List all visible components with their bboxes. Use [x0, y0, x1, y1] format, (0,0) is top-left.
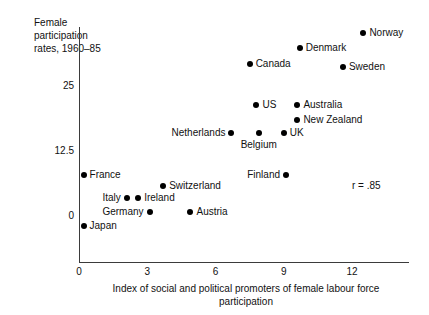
x-tick-label: 12 [337, 266, 367, 277]
data-point-label: Belgium [219, 139, 299, 150]
data-point-label: Norway [369, 27, 403, 38]
y-tick-label: 0 [34, 210, 74, 221]
data-point-label: Germany [102, 206, 143, 217]
data-point [256, 130, 262, 136]
data-point [294, 102, 300, 108]
x-axis-title: Index of social and political promoters … [96, 283, 396, 308]
data-point [135, 195, 141, 201]
y-axis-line [79, 27, 80, 263]
data-point-label: US [262, 99, 276, 110]
data-point [281, 130, 287, 136]
data-point [340, 64, 346, 70]
data-point-label: Canada [256, 58, 291, 69]
data-point-label: New Zealand [303, 114, 362, 125]
data-point-label: Japan [90, 220, 117, 231]
x-tick-label: 6 [201, 266, 231, 277]
data-point [228, 130, 234, 136]
data-point-label: Ireland [144, 192, 175, 203]
data-point [81, 172, 87, 178]
y-tick-label: 12.5 [34, 145, 74, 156]
data-point-label: Finland [247, 169, 280, 180]
correlation-annotation: r = .85 [352, 180, 381, 191]
data-point [187, 209, 193, 215]
x-tick-label: 9 [269, 266, 299, 277]
data-point-label: Switzerland [169, 180, 221, 191]
data-point-label: Australia [303, 99, 342, 110]
data-point [247, 61, 253, 67]
data-point [360, 30, 366, 36]
data-point [124, 195, 130, 201]
y-tick-label: 25 [34, 80, 74, 91]
scatter-plot-figure: Female participation rates, 1960–85 0369… [0, 0, 429, 315]
data-point-label: Sweden [349, 61, 385, 72]
data-point [147, 209, 153, 215]
x-tick-label: 0 [64, 266, 94, 277]
data-point [81, 223, 87, 229]
data-point-label: Italy [102, 192, 120, 203]
data-point-label: Austria [196, 206, 227, 217]
data-point-label: Netherlands [172, 127, 226, 138]
data-point-label: Denmark [306, 42, 347, 53]
data-point [160, 183, 166, 189]
data-point [297, 45, 303, 51]
data-point-label: UK [290, 127, 304, 138]
data-point-label: France [90, 169, 121, 180]
x-tick-label: 3 [132, 266, 162, 277]
data-point [283, 172, 289, 178]
data-point [294, 117, 300, 123]
y-axis-title: Female participation rates, 1960–85 [34, 16, 112, 56]
x-axis-line [79, 262, 409, 263]
data-point [253, 102, 259, 108]
